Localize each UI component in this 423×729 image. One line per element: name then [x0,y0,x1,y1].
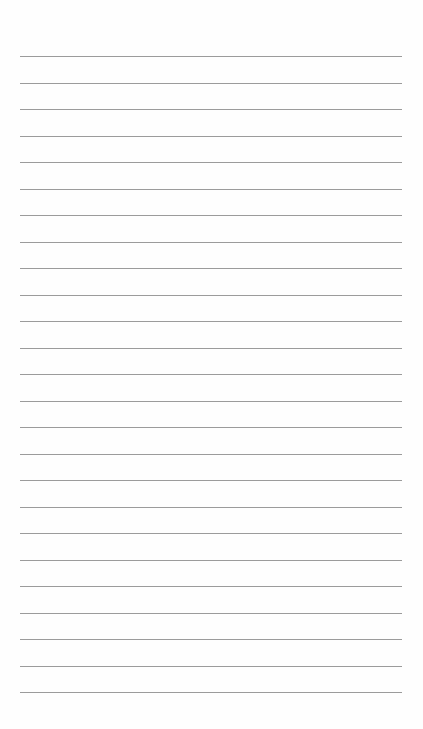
ruled-line [20,83,402,84]
ruled-line [20,454,402,455]
ruled-line [20,666,402,667]
ruled-line [20,586,402,587]
ruled-line [20,348,402,349]
ruled-line [20,136,402,137]
lined-paper-page [0,0,423,729]
ruled-line [20,109,402,110]
ruled-line [20,427,402,428]
ruled-line [20,639,402,640]
ruled-line [20,613,402,614]
ruled-line [20,507,402,508]
ruled-line [20,162,402,163]
ruled-line [20,242,402,243]
ruled-line [20,480,402,481]
ruled-line [20,215,402,216]
ruled-line [20,533,402,534]
ruled-line [20,321,402,322]
ruled-line [20,560,402,561]
ruled-line [20,692,402,693]
ruled-line [20,401,402,402]
ruled-line [20,295,402,296]
ruled-line [20,268,402,269]
ruled-line [20,56,402,57]
ruled-line [20,189,402,190]
ruled-line [20,374,402,375]
